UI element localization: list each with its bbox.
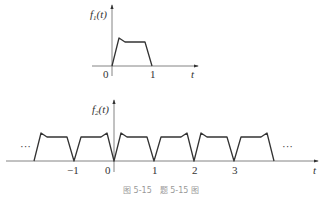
bottom-tick-0: 0 <box>105 164 111 176</box>
top-tick-1: 1 <box>150 68 156 80</box>
f1-pulse <box>112 38 152 66</box>
f1-label: f1(t) <box>90 8 107 22</box>
bottom-tick-2: 2 <box>192 164 198 176</box>
top-tick-0: 0 <box>103 68 109 80</box>
bottom-tick-neg1: −1 <box>67 164 79 176</box>
signal-figure: f1(t) 0 1 t f2(t) ··· ··· −1 0 1 2 3 t 图… <box>0 0 323 198</box>
f2-label: f2(t) <box>92 103 109 117</box>
bottom-plot: f2(t) ··· ··· −1 0 1 2 3 t <box>6 100 318 176</box>
bottom-tick-1: 1 <box>152 164 158 176</box>
bottom-t-label: t <box>313 164 317 176</box>
right-ellipsis: ··· <box>282 140 293 152</box>
figure-caption: 图 5-15 题 5-15 图 <box>123 186 199 195</box>
left-ellipsis: ··· <box>20 140 31 152</box>
f2-periodic-signal <box>34 133 274 161</box>
bottom-tick-3: 3 <box>232 164 238 176</box>
top-plot: f1(t) 0 1 t <box>90 5 198 80</box>
top-t-label: t <box>191 68 195 80</box>
